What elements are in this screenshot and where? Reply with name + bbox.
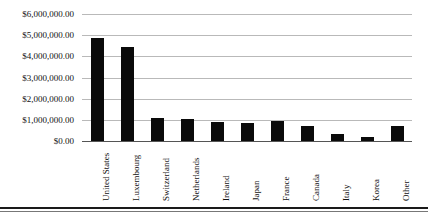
x-axis-tick-label: Netherlands (191, 143, 201, 201)
x-axis: United StatesLuxembourgSwitzerlandNether… (82, 143, 412, 201)
bar[interactable] (151, 118, 164, 141)
y-axis-tick-label: $3,000,000.00 (22, 73, 74, 82)
y-axis-tick-label: $4,000,000.00 (22, 52, 74, 61)
y-axis-tick-label: $6,000,000.00 (22, 10, 74, 19)
x-axis-tick-label: Italy (341, 143, 351, 201)
bar[interactable] (121, 47, 134, 141)
bars (82, 14, 412, 141)
x-axis-tick-label: Japan (251, 143, 261, 201)
x-axis-tick-label: Switzerland (161, 143, 171, 201)
footer-rule-thin (0, 211, 428, 212)
bar[interactable] (91, 38, 104, 141)
x-axis-tick-label: France (281, 143, 291, 201)
x-axis-tick-label: Canada (311, 143, 321, 201)
y-axis: $0.00$1,000,000.00$2,000,000.00$3,000,00… (0, 14, 78, 141)
x-axis-tick-label: Ireland (221, 143, 231, 201)
bar[interactable] (241, 123, 254, 141)
bar[interactable] (211, 122, 224, 141)
bar[interactable] (391, 126, 404, 141)
x-axis-tick-label: Korea (371, 143, 381, 201)
x-axis-tick-label: Luxembourg (131, 143, 141, 201)
bar[interactable] (301, 126, 314, 141)
y-axis-tick-label: $2,000,000.00 (22, 94, 74, 103)
y-axis-tick-label: $1,000,000.00 (22, 115, 74, 124)
bar[interactable] (361, 137, 374, 141)
y-axis-tick-label: $0.00 (54, 137, 74, 146)
bar[interactable] (331, 134, 344, 141)
bar-chart: $0.00$1,000,000.00$2,000,000.00$3,000,00… (0, 0, 428, 214)
footer-rule (0, 207, 428, 209)
bar[interactable] (181, 119, 194, 141)
axis-baseline (82, 141, 412, 142)
x-axis-tick-label: United States (101, 143, 111, 201)
x-axis-tick-label: Other (401, 143, 411, 201)
bar[interactable] (271, 121, 284, 141)
y-axis-tick-label: $5,000,000.00 (22, 31, 74, 40)
plot-area (82, 14, 412, 141)
